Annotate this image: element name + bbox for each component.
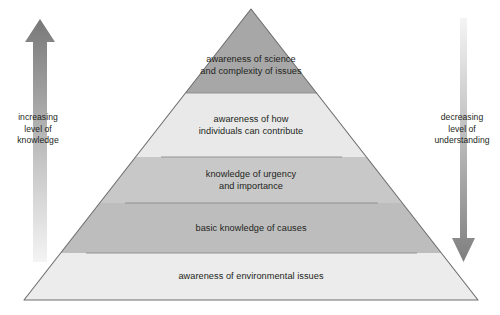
- right-axis-label: decreasing level of understanding: [424, 112, 500, 147]
- left-axis-label: increasing level of knowledge: [0, 112, 76, 147]
- pyramid-band-level-5-top: [0, 0, 500, 93]
- pyramid-band-level-2: [0, 203, 500, 253]
- pyramid-band-level-3: [0, 157, 500, 203]
- pyramid-band-level-1-base: [0, 253, 500, 315]
- diagram-canvas: [0, 0, 500, 315]
- pyramid-bands: [0, 0, 500, 315]
- pyramid-diagram: awareness of science and complexity of i…: [0, 0, 500, 315]
